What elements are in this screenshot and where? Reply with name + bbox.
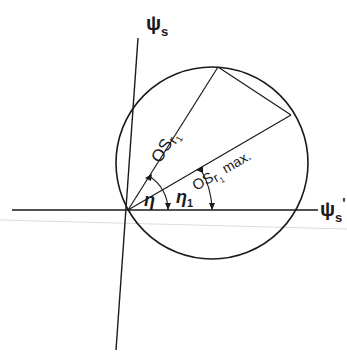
psi-symbol: ψ bbox=[146, 12, 161, 34]
angle-eta-label: η bbox=[144, 190, 155, 210]
eta-symbol: η bbox=[144, 190, 155, 210]
psi-symbol: ψ bbox=[320, 198, 335, 220]
angle-eta1-arrowhead-bottom bbox=[209, 203, 215, 210]
psi-subscript: s bbox=[161, 24, 168, 39]
angle-eta-arrowhead-top bbox=[145, 174, 152, 181]
chord-line bbox=[218, 67, 291, 115]
horizontal-axis-label: ψs' bbox=[320, 195, 346, 225]
prime-mark: ' bbox=[342, 195, 345, 211]
locus-circle bbox=[116, 67, 308, 259]
faint-scan-line bbox=[0, 220, 347, 229]
angle-eta1-label: η1 bbox=[176, 187, 193, 209]
psi-subscript: s bbox=[335, 210, 342, 225]
vector-osr1-label: OSr1 bbox=[147, 127, 185, 168]
vertical-axis-label: ψs bbox=[146, 12, 168, 39]
eta-symbol: η bbox=[176, 187, 187, 207]
label-suffix: max. bbox=[216, 147, 254, 178]
angle-eta-arrowhead-bottom bbox=[165, 203, 171, 210]
phase-circle-diagram: ψs ψs' OSr1 OSr1 max. η η1 bbox=[0, 0, 347, 356]
eta-subscript: 1 bbox=[187, 197, 193, 209]
vertical-axis bbox=[116, 38, 138, 350]
